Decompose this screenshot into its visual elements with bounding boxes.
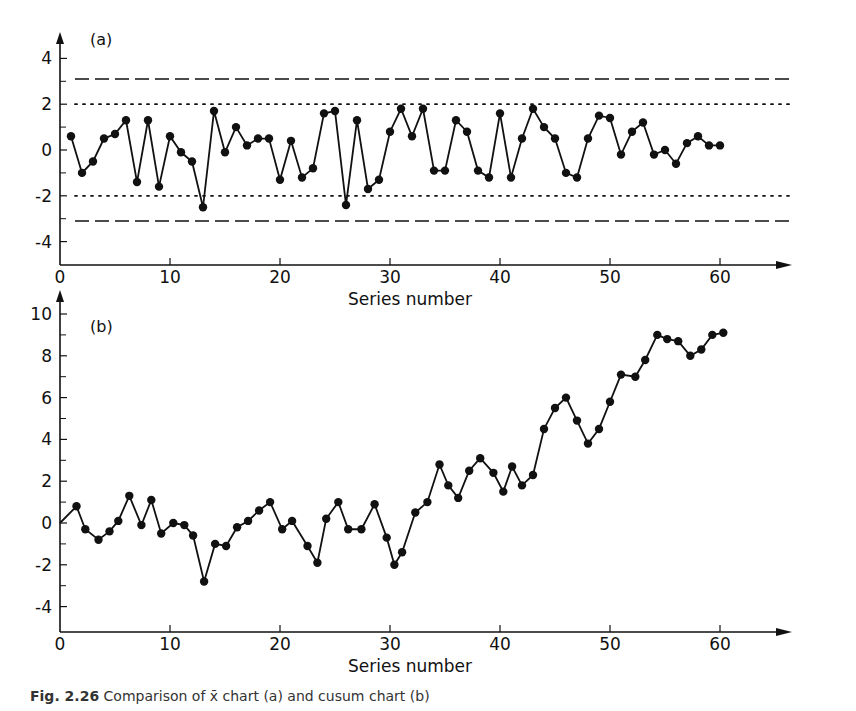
x-tick-label: 0 (55, 634, 66, 654)
data-point (661, 146, 669, 154)
data-point (243, 141, 251, 149)
data-point (653, 331, 661, 339)
data-point (386, 127, 394, 135)
data-point (288, 517, 296, 525)
data-point (232, 123, 240, 131)
data-point (278, 525, 286, 533)
data-point (595, 111, 603, 119)
data-point (496, 109, 504, 117)
data-point (508, 462, 516, 470)
data-point (331, 107, 339, 115)
y-tick-label: 4 (41, 429, 52, 449)
data-point (122, 116, 130, 124)
caption-text: Comparison of x̄ chart (a) and cusum cha… (104, 688, 430, 704)
x-tick-label: 40 (489, 267, 511, 287)
data-point (708, 331, 716, 339)
data-point (222, 542, 230, 550)
data-point (562, 393, 570, 401)
data-point (147, 496, 155, 504)
data-point (322, 515, 330, 523)
data-point (476, 454, 484, 462)
data-point (419, 105, 427, 113)
data-point (423, 498, 431, 506)
data-point (390, 561, 398, 569)
series-line (60, 333, 723, 582)
data-point (357, 525, 365, 533)
chart-panel-a: 420-2-40102030405060Series number(a) (35, 30, 795, 309)
data-point (255, 506, 263, 514)
figure-number: Fig. 2.26 (30, 688, 99, 704)
x-tick-label: 30 (379, 634, 401, 654)
x-tick-label: 60 (709, 267, 731, 287)
data-point (584, 439, 592, 447)
x-tick-label: 50 (599, 267, 621, 287)
data-point (444, 481, 452, 489)
data-point (540, 123, 548, 131)
data-point (686, 352, 694, 360)
data-point (94, 536, 102, 544)
y-tick-label: 2 (41, 94, 52, 114)
y-tick-label: -4 (35, 597, 52, 617)
y-tick-label: 0 (41, 513, 52, 533)
panel-label: (b) (90, 317, 113, 336)
data-point (694, 132, 702, 140)
data-point (719, 329, 727, 337)
x-tick-label: 30 (379, 267, 401, 287)
data-point (463, 127, 471, 135)
y-tick-label: 0 (41, 140, 52, 160)
data-point (499, 487, 507, 495)
data-point (631, 373, 639, 381)
data-point (244, 517, 252, 525)
data-point (383, 533, 391, 541)
data-point (189, 531, 197, 539)
x-axis-arrow-icon (776, 261, 792, 269)
data-point (606, 398, 614, 406)
x-axis-arrow-icon (776, 628, 792, 636)
data-point (540, 425, 548, 433)
y-tick-label: -4 (35, 232, 52, 252)
data-point (89, 157, 97, 165)
data-point (144, 116, 152, 124)
data-point (595, 425, 603, 433)
y-axis-arrow-icon (56, 290, 64, 302)
data-point (397, 105, 405, 113)
data-point (157, 529, 165, 537)
data-point (562, 169, 570, 177)
x-tick-label: 50 (599, 634, 621, 654)
data-point (518, 481, 526, 489)
data-point (211, 540, 219, 548)
data-point (342, 201, 350, 209)
data-point (287, 137, 295, 145)
data-point (441, 166, 449, 174)
data-point (81, 525, 89, 533)
data-point (180, 521, 188, 529)
data-point (584, 134, 592, 142)
data-point (672, 160, 680, 168)
data-point (313, 559, 321, 567)
data-point (364, 185, 372, 193)
x-tick-label: 20 (269, 634, 291, 654)
data-point (408, 132, 416, 140)
data-point (628, 127, 636, 135)
data-point (697, 345, 705, 353)
data-point (507, 173, 515, 181)
data-point (430, 166, 438, 174)
data-point (133, 178, 141, 186)
data-point (188, 157, 196, 165)
figure: 420-2-40102030405060Series number(a) 108… (0, 0, 856, 711)
data-point (551, 134, 559, 142)
data-point (303, 542, 311, 550)
data-point (663, 335, 671, 343)
data-point (72, 502, 80, 510)
data-point (529, 105, 537, 113)
panel-label: (a) (90, 30, 112, 49)
y-axis-arrow-icon (56, 32, 64, 44)
data-point (320, 109, 328, 117)
data-point (683, 139, 691, 147)
y-tick-label: 4 (41, 48, 52, 68)
data-point (474, 166, 482, 174)
data-point (200, 577, 208, 585)
data-point (111, 130, 119, 138)
data-point (454, 494, 462, 502)
data-point (100, 134, 108, 142)
